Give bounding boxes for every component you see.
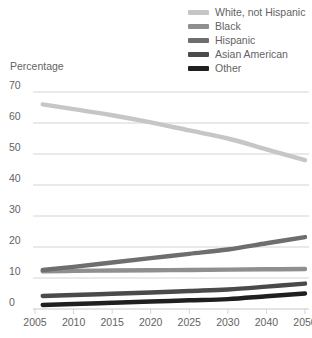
y-axis-tick-label: 20 — [9, 234, 31, 246]
series-line — [43, 104, 305, 160]
x-axis-tick-label: 2020 — [133, 316, 169, 328]
x-axis-tick-label: 2015 — [94, 316, 130, 328]
x-axis-tick-label: 2050 — [287, 316, 312, 328]
y-axis-tick-label: 70 — [9, 79, 31, 91]
y-axis-tick-label: 40 — [9, 172, 31, 184]
y-axis-tick-label: 30 — [9, 203, 31, 215]
plot-area: 0102030405060702005201020152020202520302… — [0, 0, 312, 338]
y-axis-tick-label: 60 — [9, 110, 31, 122]
y-axis-tick-label: 10 — [9, 265, 31, 277]
x-axis-tick-label: 2005 — [17, 316, 53, 328]
series-line — [43, 237, 305, 270]
chart-canvas — [0, 0, 312, 338]
y-axis-tick-label: 50 — [9, 141, 31, 153]
series-line — [43, 269, 305, 271]
x-axis-tick-label: 2040 — [248, 316, 284, 328]
y-axis-tick-label: 0 — [9, 296, 31, 308]
series-line — [43, 284, 305, 296]
x-axis-tick-label: 2025 — [171, 316, 207, 328]
x-axis-tick-label: 2030 — [210, 316, 246, 328]
population-projection-chart: White, not HispanicBlackHispanicAsian Am… — [0, 0, 312, 338]
x-axis-tick-label: 2010 — [56, 316, 92, 328]
